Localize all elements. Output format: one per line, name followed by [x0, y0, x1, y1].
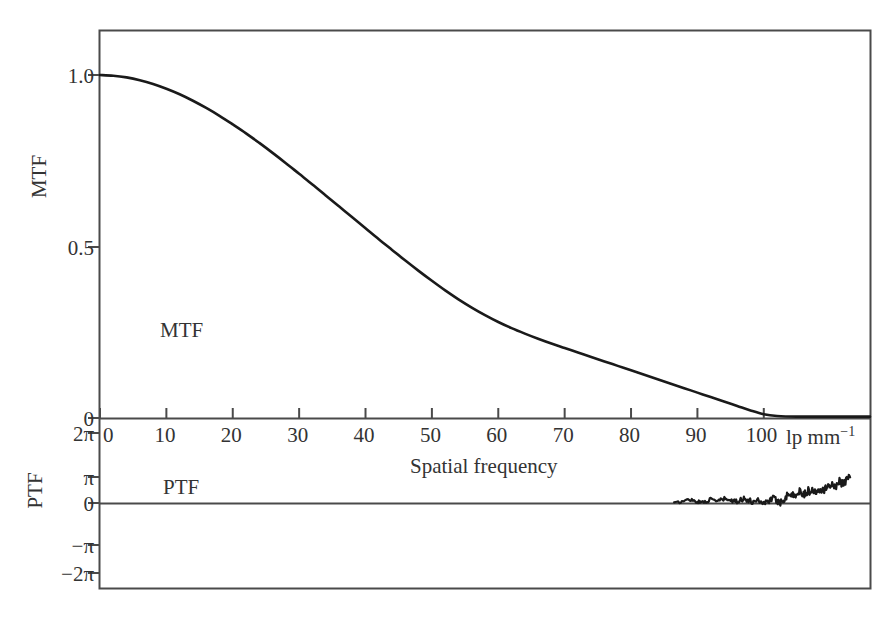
mtf-axis-title: MTF [29, 137, 50, 217]
ptf-ytick-label-pi: π [83, 468, 94, 489]
x-tick-label: 60 [486, 425, 507, 446]
x-axis-title: Spatial frequency [410, 456, 558, 477]
plot-canvas [0, 0, 887, 618]
x-tick-label: 50 [420, 425, 441, 446]
mtf-ytick-label-0.5: 0.5 [68, 238, 94, 259]
x-axis-units-text: lp mm [786, 425, 840, 449]
ptf-ytick-label-2pi: 2π [73, 424, 94, 445]
x-tick-label: 80 [619, 425, 640, 446]
x-tick-label: 20 [221, 425, 242, 446]
ptf-curve-annotation: PTF [163, 477, 199, 498]
x-axis-units-exponent: −1 [840, 424, 855, 439]
ptf-ytick-label-0: 0 [84, 494, 95, 515]
mtf-ytick-label-1: 1.0 [68, 66, 94, 87]
mtf-ptf-figure: 1.0 0.5 0 2π π 0 −π −2π MTF PTF MTF PTF … [0, 0, 887, 618]
x-tick-label: 30 [287, 425, 308, 446]
ptf-axis-title: PTF [25, 451, 46, 531]
ptf-ytick-label-neg-2pi: −2π [61, 564, 94, 585]
x-tick-label: 40 [354, 425, 375, 446]
mtf-curve-annotation: MTF [160, 320, 203, 341]
ptf-ytick-label-neg-pi: −π [72, 536, 94, 557]
x-tick-label: 10 [154, 425, 175, 446]
x-axis-units-label: lp mm−1 [786, 425, 855, 448]
x-tick-label: 0 [103, 425, 114, 446]
mtf-curve [100, 75, 870, 417]
ptf-curve [674, 475, 850, 506]
x-axis-ticks [100, 408, 764, 418]
x-tick-label: 90 [685, 425, 706, 446]
x-tick-label: 70 [553, 425, 574, 446]
x-tick-label: 100 [746, 425, 778, 446]
